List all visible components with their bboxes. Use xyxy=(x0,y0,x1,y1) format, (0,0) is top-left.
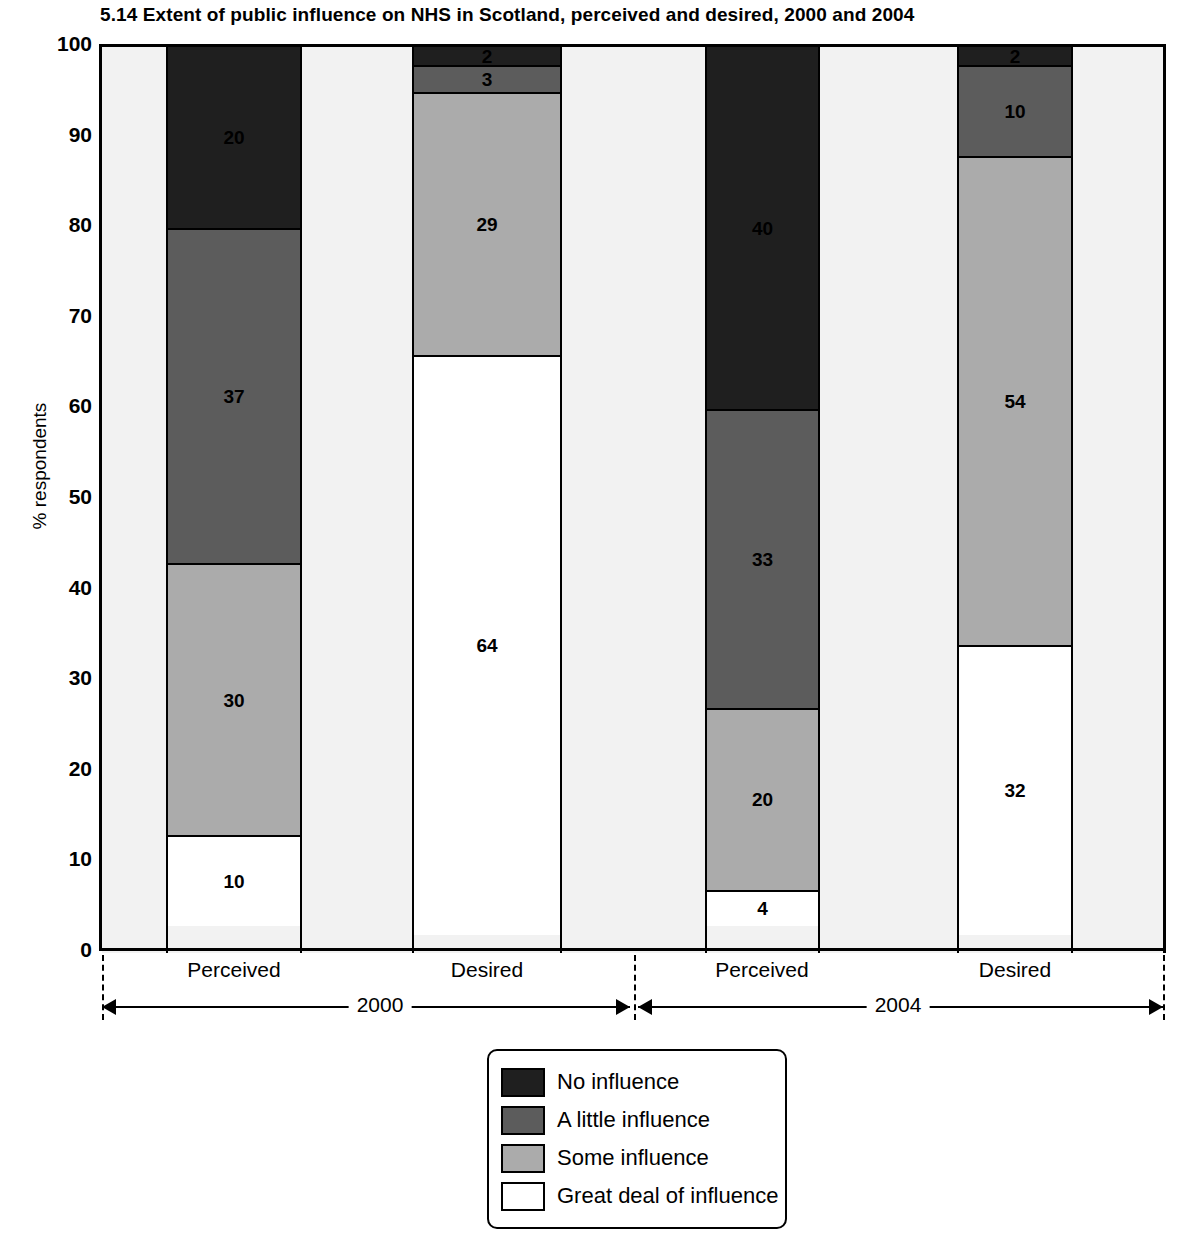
bar-segment[interactable]: 54 xyxy=(959,156,1071,645)
bar-desired-2000[interactable]: 232964 xyxy=(412,47,562,953)
bar-segment-value: 20 xyxy=(223,128,244,147)
legend-item[interactable]: A little influence xyxy=(501,1101,771,1139)
chart-page: 5.14 Extent of public influence on NHS i… xyxy=(0,0,1188,1239)
y-tick-label: 0 xyxy=(32,938,92,962)
arrow-left-icon xyxy=(102,999,116,1015)
page-title: 5.14 Extent of public influence on NHS i… xyxy=(100,4,914,26)
bar-segment-value: 2 xyxy=(482,47,493,66)
legend-label: No influence xyxy=(557,1071,679,1093)
bar-segment[interactable]: 33 xyxy=(707,409,818,708)
bar-segment[interactable]: 3 xyxy=(414,65,560,92)
bar-segment-value: 40 xyxy=(752,219,773,238)
bar-desired-2004[interactable]: 2105432 xyxy=(957,47,1073,953)
bar-segment[interactable]: 29 xyxy=(414,92,560,355)
legend-swatch xyxy=(501,1144,545,1173)
bar-segment[interactable]: 10 xyxy=(959,65,1071,156)
y-tick-label: 50 xyxy=(32,485,92,509)
legend-label: Some influence xyxy=(557,1147,709,1169)
y-tick-label: 40 xyxy=(32,576,92,600)
legend-swatch xyxy=(501,1106,545,1135)
x-axis-label-perceived-2: Perceived xyxy=(715,958,808,982)
bar-segment-value: 10 xyxy=(1004,102,1025,121)
bar-segment[interactable]: 2 xyxy=(959,47,1071,65)
legend-item[interactable]: Some influence xyxy=(501,1139,771,1177)
arrow-right-icon xyxy=(616,999,630,1015)
bar-segment-value: 32 xyxy=(1004,781,1025,800)
bar-segment-value: 54 xyxy=(1004,392,1025,411)
legend-item[interactable]: Great deal of influence xyxy=(501,1177,771,1215)
legend-label: A little influence xyxy=(557,1109,710,1131)
group-label-2000: 2000 xyxy=(349,993,412,1017)
bar-segment-value: 20 xyxy=(752,790,773,809)
bar-perceived-2004[interactable]: 4033204 xyxy=(705,47,820,953)
plot-area: 2037301023296440332042105432 xyxy=(102,44,1166,953)
bar-segment-value: 30 xyxy=(223,691,244,710)
y-axis-ticks: 1009080706050403020100 xyxy=(0,0,92,1239)
bar-segment[interactable]: 20 xyxy=(168,47,300,228)
bar-segment[interactable]: 40 xyxy=(707,47,818,409)
y-tick-label: 100 xyxy=(32,32,92,56)
bar-segment[interactable]: 30 xyxy=(168,563,300,835)
bar-segment[interactable]: 37 xyxy=(168,228,300,563)
arrow-right-icon xyxy=(1149,999,1163,1015)
bar-segment[interactable]: 4 xyxy=(707,890,818,926)
legend-item[interactable]: No influence xyxy=(501,1063,771,1101)
group-divider xyxy=(634,955,636,1020)
group-label-2004: 2004 xyxy=(867,993,930,1017)
bar-perceived-2000[interactable]: 20373010 xyxy=(166,47,302,953)
x-axis-label-desired-1: Desired xyxy=(451,958,523,982)
bar-segment-value: 2 xyxy=(1010,47,1021,66)
bar-segment[interactable]: 10 xyxy=(168,835,300,926)
bar-segment-value: 4 xyxy=(757,899,768,918)
y-tick-label: 30 xyxy=(32,666,92,690)
bar-segment[interactable]: 32 xyxy=(959,645,1071,935)
y-tick-label: 10 xyxy=(32,847,92,871)
bar-segment-value: 33 xyxy=(752,550,773,569)
y-tick-label: 60 xyxy=(32,394,92,418)
legend-swatch xyxy=(501,1182,545,1211)
bar-segment-value: 64 xyxy=(476,636,497,655)
bar-segment[interactable]: 20 xyxy=(707,708,818,889)
bar-segment-value: 29 xyxy=(476,215,497,234)
x-axis-label-perceived-0: Perceived xyxy=(187,958,280,982)
bar-segment-value: 10 xyxy=(223,872,244,891)
group-divider xyxy=(1163,955,1165,1020)
bar-segment-value: 3 xyxy=(482,70,493,89)
bar-segment-value: 37 xyxy=(223,387,244,406)
y-tick-label: 90 xyxy=(32,123,92,147)
y-tick-label: 20 xyxy=(32,757,92,781)
y-tick-label: 80 xyxy=(32,213,92,237)
arrow-left-icon xyxy=(638,999,652,1015)
bar-segment[interactable]: 64 xyxy=(414,355,560,935)
legend-swatch xyxy=(501,1068,545,1097)
legend-label: Great deal of influence xyxy=(557,1185,778,1207)
x-axis-line xyxy=(99,948,1165,951)
legend: No influenceA little influenceSome influ… xyxy=(487,1049,787,1229)
bar-segment[interactable]: 2 xyxy=(414,47,560,65)
x-axis-label-desired-3: Desired xyxy=(979,958,1051,982)
y-tick-label: 70 xyxy=(32,304,92,328)
